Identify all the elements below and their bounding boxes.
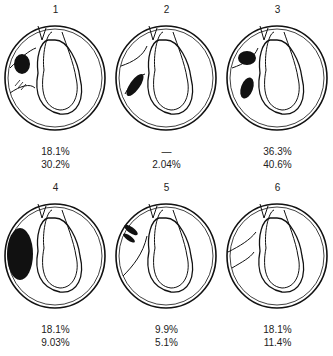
value-a: 9.9% — [111, 323, 222, 336]
value-a: 18.1% — [0, 145, 111, 158]
panel-number: 4 — [0, 182, 111, 193]
value-b: 40.6% — [222, 158, 333, 171]
panel-number: 5 — [111, 182, 222, 193]
value-b: 2.04% — [111, 158, 222, 171]
panel-number: 1 — [0, 4, 111, 15]
cross-section-diagram — [111, 196, 222, 316]
diagram-panel-4: 4 18.1% 9.03% — [0, 178, 111, 356]
diagram-panel-3: 3 36.3% 40.6% — [222, 0, 333, 178]
cross-section-diagram — [111, 18, 222, 138]
value-b: 11.4% — [222, 336, 333, 349]
cross-section-diagram — [0, 196, 111, 316]
value-a: 18.1% — [222, 323, 333, 336]
diagram-panel-6: 6 18.1% 11.4% — [222, 178, 333, 356]
value-b: 30.2% — [0, 158, 111, 171]
value-a: — — [111, 145, 222, 158]
value-a: 18.1% — [0, 323, 111, 336]
value-b: 5.1% — [111, 336, 222, 349]
cross-section-diagram — [222, 18, 333, 138]
diagram-panel-1: 1 18.1% 30.2% — [0, 0, 111, 178]
panel-number: 3 — [222, 4, 333, 15]
cross-section-diagram — [222, 196, 333, 316]
diagram-panel-5: 5 9.9% 5.1% — [111, 178, 222, 356]
diagram-panel-2: 2 — 2.04% — [111, 0, 222, 178]
value-b: 9.03% — [0, 336, 111, 349]
value-a: 36.3% — [222, 145, 333, 158]
panel-number: 6 — [222, 182, 333, 193]
panel-number: 2 — [111, 4, 222, 15]
cross-section-diagram — [0, 18, 111, 138]
